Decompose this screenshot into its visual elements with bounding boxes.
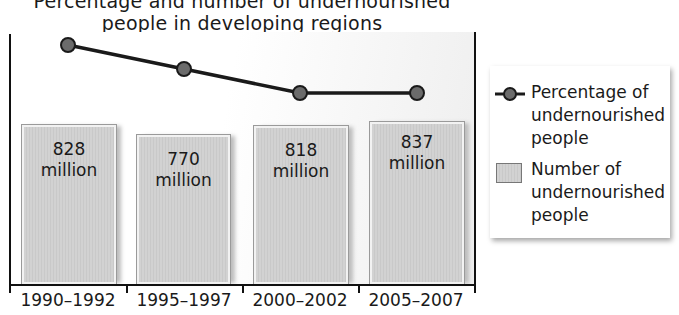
line-marker-legend-icon <box>494 86 526 102</box>
legend: Percentage of undernourished people Numb… <box>490 66 670 238</box>
line-marker <box>410 86 424 100</box>
line-marker <box>61 38 75 52</box>
line-marker <box>177 62 191 76</box>
legend-label-number: Number of undernourished people <box>531 158 671 227</box>
legend-label-percentage: Percentage of undernourished people <box>531 81 671 150</box>
x-label-2000-2002: 2000–2002 <box>242 290 358 310</box>
line-marker <box>293 86 307 100</box>
x-label-2005-2007: 2005–2007 <box>358 290 474 310</box>
x-label-1995-1997: 1995–1997 <box>126 290 242 310</box>
x-label-1990-1992: 1990–1992 <box>10 290 126 310</box>
bar-swatch-legend-icon <box>496 163 522 183</box>
percentage-line-series <box>0 0 480 300</box>
